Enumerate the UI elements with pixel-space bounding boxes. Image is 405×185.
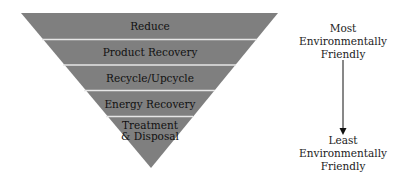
scale-label-line: Environmentally [288, 147, 398, 160]
tier-label-product-recovery: Product Recovery [90, 47, 210, 58]
scale-label-least-friendly: Least Environmentally Friendly [288, 134, 398, 173]
scale-label-line: Friendly [288, 160, 398, 173]
tier-label-line: & Disposal [100, 131, 200, 142]
scale-label-most-friendly: Most Environmentally Friendly [288, 22, 398, 61]
tier-label-energy-recovery: Energy Recovery [90, 99, 210, 110]
scale-label-line: Most [288, 22, 398, 35]
tier-label-reduce: Reduce [100, 21, 200, 32]
tier-label-treatment-disposal: Treatment & Disposal [100, 120, 200, 142]
tier-label-recycle-upcycle: Recycle/Upcycle [90, 73, 210, 84]
waste-hierarchy-diagram: Reduce Product Recovery Recycle/Upcycle … [0, 0, 405, 185]
scale-label-line: Environmentally [288, 35, 398, 48]
scale-label-line: Least [288, 134, 398, 147]
scale-label-line: Friendly [288, 48, 398, 61]
